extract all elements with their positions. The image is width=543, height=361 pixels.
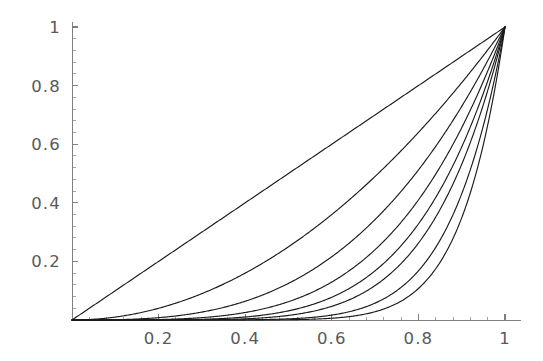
y-axis-tick-label: 0.6 — [31, 135, 61, 154]
axes — [72, 22, 521, 321]
x-axis-tick-labels: 0.20.40.60.81 — [144, 329, 511, 348]
y-axis-tick-labels: 0.20.40.60.81 — [31, 18, 61, 271]
y-axis-tick-label: 0.2 — [31, 252, 61, 271]
x-axis-tick-label: 0.6 — [317, 329, 347, 348]
y-axis-tick-label: 1 — [49, 18, 61, 37]
chart-figure: 0.20.40.60.81 0.20.40.60.81 — [0, 0, 543, 361]
plot-canvas: 0.20.40.60.81 0.20.40.60.81 — [0, 0, 543, 361]
y-axis-tick-label: 0.8 — [31, 77, 61, 96]
x-axis-tick-label: 1 — [499, 329, 511, 348]
x-axis-tick-label: 0.8 — [403, 329, 433, 348]
y-axis-tick-label: 0.4 — [31, 194, 61, 213]
data-curve — [72, 27, 505, 320]
x-axis-tick-label: 0.4 — [230, 329, 260, 348]
data-curves — [72, 27, 505, 320]
x-axis-tick-label: 0.2 — [144, 329, 174, 348]
